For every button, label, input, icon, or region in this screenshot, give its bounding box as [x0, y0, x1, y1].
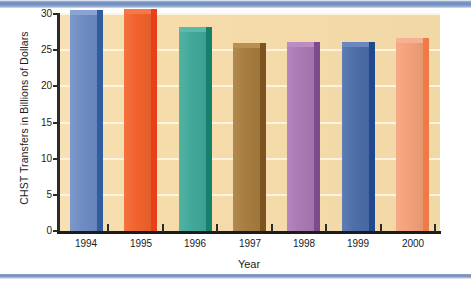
bar-front-face — [342, 47, 369, 231]
bar-top-face — [396, 38, 429, 43]
bar-1997 — [233, 48, 260, 231]
top-decorative-band — [0, 0, 471, 7]
y-tick-mark — [53, 85, 58, 87]
x-tick-mark — [107, 224, 109, 232]
bar-side-face — [423, 43, 429, 231]
bar-top-face — [70, 10, 103, 15]
x-tick-mark — [434, 224, 436, 232]
bar-1996 — [179, 32, 206, 231]
y-tick-mark — [53, 194, 58, 196]
bar-top-face — [287, 42, 320, 47]
y-tick-mark — [53, 122, 58, 124]
bar-front-face — [70, 15, 97, 231]
bar-side-face — [206, 32, 212, 231]
x-tick-mark — [216, 224, 218, 232]
x-tick-label: 1996 — [168, 238, 222, 249]
y-tick-mark — [53, 13, 58, 15]
bar-side-face — [97, 15, 103, 231]
x-tick-label: 1998 — [277, 238, 331, 249]
x-tick-label: 2000 — [386, 238, 440, 249]
bar-side-face — [151, 14, 157, 231]
x-tick-label: 1994 — [59, 238, 113, 249]
bar-front-face — [233, 48, 260, 231]
bar-side-face — [260, 48, 266, 231]
x-tick-label: 1999 — [331, 238, 385, 249]
x-tick-mark — [325, 224, 327, 232]
bar-1994 — [70, 15, 97, 231]
bar-1998 — [287, 47, 314, 231]
x-tick-label: 1997 — [223, 238, 277, 249]
bar-top-face — [342, 42, 375, 47]
chart-figure: 051015202530 199419951996199719981999200… — [0, 0, 471, 287]
bar-side-face — [369, 47, 375, 231]
y-tick-mark — [53, 230, 58, 232]
y-axis-title: CHST Transfers in Billions of Dollars — [18, 8, 30, 228]
bar-front-face — [124, 14, 151, 231]
bar-1999 — [342, 47, 369, 231]
bar-front-face — [287, 47, 314, 231]
bottom-decorative-hairline — [0, 278, 471, 279]
x-tick-mark — [162, 224, 164, 232]
bar-front-face — [396, 43, 423, 231]
bar-front-face — [179, 32, 206, 231]
y-tick-mark — [53, 158, 58, 160]
bar-top-face — [233, 43, 266, 48]
x-axis-line — [57, 231, 441, 234]
bar-side-face — [314, 47, 320, 231]
bar-top-face — [179, 27, 212, 32]
bar-top-face — [124, 9, 157, 14]
y-tick-mark — [53, 49, 58, 51]
gridline — [59, 13, 440, 15]
x-axis-title: Year — [58, 258, 440, 270]
x-tick-label: 1995 — [114, 238, 168, 249]
bar-2000 — [396, 43, 423, 231]
x-tick-mark — [271, 224, 273, 232]
top-decorative-hairline — [0, 7, 471, 8]
x-tick-mark — [380, 224, 382, 232]
bar-1995 — [124, 14, 151, 231]
